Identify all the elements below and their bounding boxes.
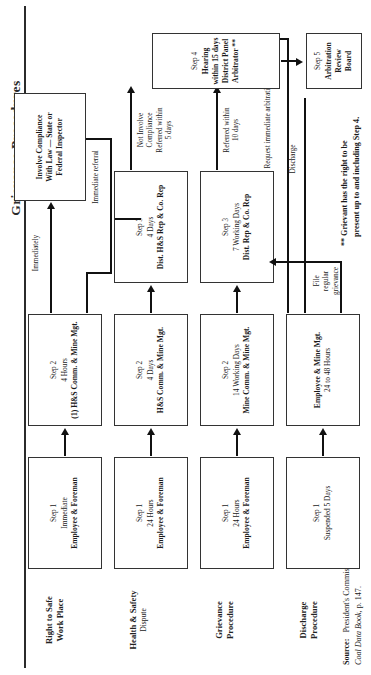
connector-immediate-referral-seg-1 (86, 273, 88, 313)
flowchart: Right to Safe Work Place Health & Safety… (0, 0, 371, 675)
edge-label-line-1: Request (264, 145, 272, 168)
box-line-2: Arbitration Review (324, 37, 344, 85)
box-line-1: Involve Compliance (35, 115, 45, 180)
box-line-1: Step 3 (222, 218, 232, 236)
arrowhead-safe-1-to-2 (61, 428, 69, 435)
box-step-4[interactable]: Step 4 Hearing within 15 days District P… (152, 33, 280, 89)
lane-line-2: Procedure (225, 601, 235, 639)
connector-hs-2-to-3 (150, 291, 152, 313)
box-hs-step-1[interactable]: Step 1 24 Hours Employee & Foreman (114, 457, 188, 569)
connector-safe-2-to-compliance (50, 208, 52, 313)
lane-line-2: Procedure (309, 601, 319, 639)
arrowhead-safe-2-to-compliance (47, 202, 55, 209)
box-line-3: District Panel (221, 39, 231, 84)
box-line-2: 24 to 48 Hours (323, 348, 333, 392)
box-line-1: Step 4 (191, 52, 201, 70)
connector-immediate-referral-seg-2 (86, 272, 112, 274)
box-line-3: H&S Comm. & Mine Mgt. (156, 327, 166, 413)
edge-label-line-2: immediate (264, 113, 272, 143)
connector-safe-1-to-2 (64, 434, 66, 456)
lane-line-1: Grievance (214, 601, 224, 639)
edge-label-not-involve-compliance: Not Involve Compliance Referred within 5… (137, 91, 174, 169)
connector-grievance-3-to-step-4 (216, 92, 218, 170)
box-line-2: 14 Working Days (232, 344, 242, 396)
box-line-1: Step 5 (314, 52, 324, 70)
box-discharge-step-1[interactable]: Step 1 Suspended 5 Days (286, 457, 360, 569)
box-line-3: Employee & Foreman (242, 477, 252, 549)
box-line-3: Dist. Rep & Co. Rep (242, 194, 252, 260)
lane-line-2: Work Place (55, 599, 65, 642)
connector-grievance-2-to-3 (236, 291, 238, 313)
box-discharge-step-2[interactable]: Employee & Mine Mgt. 24 to 48 Hours (286, 314, 360, 426)
connector-immediate-referral-seg-3 (110, 138, 112, 274)
box-line-2: With Law — State or (45, 112, 55, 181)
box-line-1: Step 1 (222, 504, 232, 522)
connector-discharge-to-step-4 (304, 98, 306, 313)
box-line-1: Step 1 (136, 504, 146, 522)
box-hs-step-2[interactable]: Step 2 4 Days H&S Comm. & Mine Mgt. (114, 314, 188, 426)
arrowhead-hs-2-to-3 (147, 285, 155, 292)
box-line-3: Board (344, 51, 354, 71)
box-grievance-step-3[interactable]: Step 3 7 Working Days Dist. Rep & Co. Re… (200, 171, 274, 283)
connector-hs-3-to-step-4 (130, 92, 132, 170)
edge-label-line-1: Referred within (223, 107, 231, 152)
edge-label-line-2: regular (322, 271, 330, 291)
box-line-2: 4 Days (146, 360, 156, 381)
connector-discharge-1-to-2 (322, 434, 324, 456)
box-line-2: Suspended 5 Days (323, 486, 333, 541)
arrowhead-step-4-to-step-5 (296, 58, 303, 66)
box-line-1: Step 2 (222, 361, 232, 379)
edge-label-line-3: Referred within (156, 107, 164, 152)
edge-label-line-3: grievance (332, 267, 340, 295)
connector-grievance-1-to-2 (236, 434, 238, 456)
edge-label-line-2: Compliance (146, 113, 154, 148)
box-line-1: Step 1 (50, 504, 60, 522)
box-safe-step-2[interactable]: Step 2 4 Hours (1) H&S Comm. & Mine Mgt. (28, 314, 102, 426)
edge-label-request-immediate-arbitration: Request immediate arbitration (264, 75, 273, 175)
box-line-3: Dist. H&S Rep & Co. Rep (156, 185, 166, 270)
box-line-1: Step 2 (50, 361, 60, 379)
lane-sub: Dispute (139, 579, 149, 661)
arrowhead-hs-3-to-step-4 (127, 86, 135, 93)
lane-label-right-to-safe-work-place: Right to Safe Work Place (44, 579, 66, 661)
box-line-3: Employee & Foreman (156, 477, 166, 549)
box-safe-step-1[interactable]: Step 1 Immediate Employee & Foreman (28, 457, 102, 569)
box-line-1: Step 2 (136, 361, 146, 379)
arrowhead-hs-1-to-2 (147, 428, 155, 435)
edge-label-file-regular-grievance: File regular grievance (313, 251, 341, 311)
edge-label-line-2: 10 days (232, 119, 240, 141)
lane-label-health-and-safety-dispute: Health & Safety Dispute (128, 579, 149, 661)
edge-label-immediately: Immediately (32, 213, 41, 293)
arrowhead-file-regular-grievance (269, 259, 276, 267)
arrowhead-grievance-2-to-3 (233, 285, 241, 292)
box-grievance-step-1[interactable]: Step 1 24 Hours Employee & Foreman (200, 457, 274, 569)
edge-label-immediate-referral-bottom: Immediate referral (92, 127, 101, 227)
lane-line-1: Health & Safety (128, 590, 138, 649)
lane-label-discharge-procedure: Discharge Procedure (298, 579, 320, 661)
box-involve-compliance[interactable]: Involve Compliance With Law — State or F… (14, 93, 86, 201)
box-line-3: Mine Comm. & Mine Mgt. (242, 327, 252, 414)
box-hs-step-3[interactable]: Step 3 4 Days Dist. H&S Rep & Co. Rep (114, 171, 188, 283)
box-line-2: 24 Hours (146, 499, 156, 526)
edge-label-line-1: Not Involve (137, 113, 145, 148)
edge-label-discharge: Discharge (289, 121, 298, 197)
box-line-3: Federal Inspector (55, 118, 65, 176)
box-step-5[interactable]: Step 5 Arbitration Review Board (306, 33, 362, 89)
box-grievance-step-2[interactable]: Step 2 14 Working Days Mine Comm. & Mine… (200, 314, 274, 426)
box-line-2: 4 Hours (60, 358, 70, 382)
connector-hs-3-to-compliance-seg-1 (115, 218, 141, 220)
box-line-2: Immediate (60, 497, 70, 529)
arrowhead-discharge-1-to-2 (319, 428, 327, 435)
lane-label-grievance-procedure: Grievance Procedure (214, 579, 236, 661)
connector-step-4-to-step-5 (281, 60, 297, 62)
connector-hs-1-to-2 (150, 434, 152, 456)
edge-label-line-4: 5 days (165, 121, 173, 140)
edge-label-line-1: File (313, 275, 321, 286)
box-line-2: Hearing within 15 days (201, 37, 221, 85)
box-line-2: 7 Working Days (232, 203, 242, 251)
edge-label-referred-within-10-days: Referred within 10 days (223, 91, 242, 169)
box-line-4: Arbitrator ** (231, 39, 241, 83)
box-line-1: Employee & Mine Mgt. (313, 332, 323, 408)
lane-line-1: Right to Safe (44, 596, 54, 644)
box-line-2: 24 Hours (232, 499, 242, 526)
